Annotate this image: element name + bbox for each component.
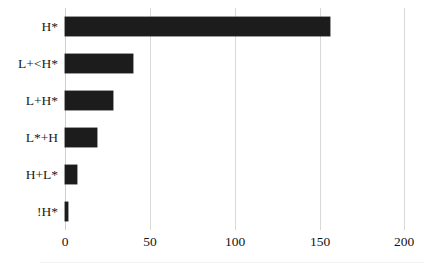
bar-row bbox=[65, 8, 405, 45]
bar-l-plus-lt-h-star bbox=[65, 54, 133, 73]
bar-row bbox=[65, 193, 405, 230]
x-axis-tick-4: 200 bbox=[394, 234, 414, 250]
x-axis-tick-2: 100 bbox=[225, 234, 245, 250]
bar-h-star bbox=[65, 17, 330, 36]
scan-edge-artifact bbox=[40, 262, 424, 263]
y-axis-tick-label: !H* bbox=[37, 204, 58, 220]
bar-chart: H* L+<H* L+H* L*+H H+L* !H* 0 50 100 150… bbox=[0, 0, 434, 265]
bar-h-plus-l-star bbox=[65, 165, 77, 184]
x-axis-labels: 0 50 100 150 200 bbox=[65, 234, 405, 256]
y-axis-tick-5: !H* bbox=[0, 193, 58, 230]
y-axis-labels: H* L+<H* L+H* L*+H H+L* !H* bbox=[0, 8, 62, 230]
y-axis-tick-4: H+L* bbox=[0, 156, 58, 193]
y-axis-tick-2: L+H* bbox=[0, 82, 58, 119]
y-axis-tick-label: L*+H bbox=[26, 130, 58, 146]
bar-not-h-star bbox=[65, 202, 68, 221]
bar-row bbox=[65, 119, 405, 156]
bar-row bbox=[65, 156, 405, 193]
x-axis-tick-1: 50 bbox=[143, 234, 157, 250]
y-axis-tick-3: L*+H bbox=[0, 119, 58, 156]
x-axis-tick-0: 0 bbox=[62, 234, 69, 250]
bar-row bbox=[65, 82, 405, 119]
y-axis-tick-label: H* bbox=[42, 19, 59, 35]
bar-l-plus-h-star bbox=[65, 91, 113, 110]
y-axis-tick-label: L+H* bbox=[26, 93, 58, 109]
x-axis-tick-3: 150 bbox=[310, 234, 330, 250]
y-axis-tick-0: H* bbox=[0, 8, 58, 45]
plot-area bbox=[65, 8, 405, 230]
bar-l-star-plus-h bbox=[65, 128, 97, 147]
y-axis-tick-1: L+<H* bbox=[0, 45, 58, 82]
bar-row bbox=[65, 45, 405, 82]
y-axis-tick-label: L+<H* bbox=[18, 56, 58, 72]
y-axis-tick-label: H+L* bbox=[26, 167, 58, 183]
